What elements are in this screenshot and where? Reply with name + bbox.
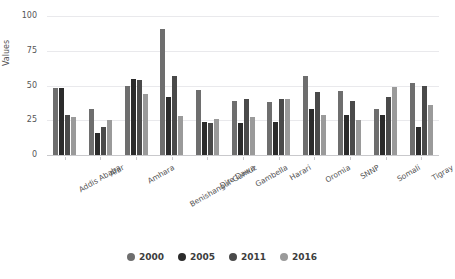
x-axis-label: Tigray — [430, 163, 455, 182]
x-axis-label: Amhara — [146, 163, 176, 186]
bar-group — [160, 16, 183, 155]
bar — [244, 99, 249, 155]
legend-item[interactable]: 2016 — [280, 252, 317, 262]
bar — [53, 88, 58, 155]
bar — [344, 115, 349, 155]
bar-group — [53, 16, 76, 155]
bar — [232, 101, 237, 155]
bar — [250, 117, 255, 155]
bar — [386, 97, 391, 155]
legend-item[interactable]: 2011 — [229, 252, 266, 262]
y-tick-label-50: 50 — [7, 82, 37, 90]
bar — [303, 76, 308, 155]
plot-area: 0255075100 — [47, 16, 439, 155]
legend-label: 2016 — [292, 252, 317, 262]
legend-swatch-icon — [127, 253, 135, 261]
bar — [428, 105, 433, 155]
bar — [71, 117, 76, 155]
bar — [172, 76, 177, 155]
chart-title — [0, 0, 444, 2]
chart-legend: 2000200520112016 — [0, 252, 444, 262]
bar-group — [89, 16, 112, 155]
bar — [95, 133, 100, 155]
legend-item[interactable]: 2005 — [178, 252, 215, 262]
x-tick — [350, 157, 351, 160]
bar — [214, 119, 219, 155]
bar — [285, 99, 290, 155]
x-tick — [279, 157, 280, 160]
bar — [238, 123, 243, 155]
bar — [374, 109, 379, 155]
x-tick — [172, 157, 173, 160]
x-tick — [386, 157, 387, 160]
bar — [338, 91, 343, 155]
bar — [125, 86, 130, 156]
bar — [279, 99, 284, 155]
x-axis-label: Dire Dawa — [219, 163, 257, 190]
legend-label: 2005 — [190, 252, 215, 262]
x-axis-label: Somali — [395, 163, 422, 184]
bar — [131, 79, 136, 155]
x-axis-label: Harari — [288, 163, 312, 182]
bar — [422, 86, 427, 156]
legend-swatch-icon — [229, 253, 237, 261]
legend-label: 2011 — [241, 252, 266, 262]
bar — [267, 102, 272, 155]
legend-swatch-icon — [178, 253, 186, 261]
legend-item[interactable]: 2000 — [127, 252, 164, 262]
bar — [137, 80, 142, 155]
bar — [89, 109, 94, 155]
bar-group — [338, 16, 361, 155]
bar — [208, 123, 213, 155]
x-axis-label: SNNP — [359, 163, 381, 181]
x-tick — [136, 157, 137, 160]
bar — [356, 120, 361, 155]
legend-label: 2000 — [139, 252, 164, 262]
bar-group — [232, 16, 255, 155]
x-axis-label: Gambella — [254, 163, 290, 189]
bar — [380, 115, 385, 155]
y-tick-label-0: 0 — [7, 151, 37, 159]
bar — [178, 116, 183, 155]
bar — [143, 94, 148, 155]
bar-group — [196, 16, 219, 155]
bar — [315, 92, 320, 155]
x-tick — [421, 157, 422, 160]
gridline-0 — [47, 155, 439, 156]
x-tick — [207, 157, 208, 160]
x-axis-labels: Addis AbabaAfarAmharaBenishangul-GumuzDi… — [47, 157, 439, 217]
x-tick — [243, 157, 244, 160]
bar — [101, 127, 106, 155]
bar-group — [303, 16, 326, 155]
bar — [321, 115, 326, 155]
legend-swatch-icon — [280, 253, 288, 261]
x-tick — [314, 157, 315, 160]
bar — [65, 115, 70, 155]
bar — [416, 127, 421, 155]
y-tick-label-100: 100 — [7, 12, 37, 20]
x-tick — [100, 157, 101, 160]
bar — [107, 120, 112, 155]
bar — [392, 87, 397, 155]
bar-group — [410, 16, 433, 155]
bar-group — [374, 16, 397, 155]
x-axis-label: Oromia — [324, 163, 352, 184]
bar — [196, 90, 201, 155]
y-tick-label-75: 75 — [7, 47, 37, 55]
bar-group — [267, 16, 290, 155]
bar — [59, 88, 64, 155]
bar-group — [125, 16, 148, 155]
bar — [160, 29, 165, 155]
bar — [166, 97, 171, 155]
bar — [410, 83, 415, 155]
bar — [202, 122, 207, 155]
x-tick — [65, 157, 66, 160]
bar — [350, 101, 355, 155]
bar — [273, 122, 278, 155]
bar — [309, 109, 314, 155]
y-tick-label-25: 25 — [7, 116, 37, 124]
